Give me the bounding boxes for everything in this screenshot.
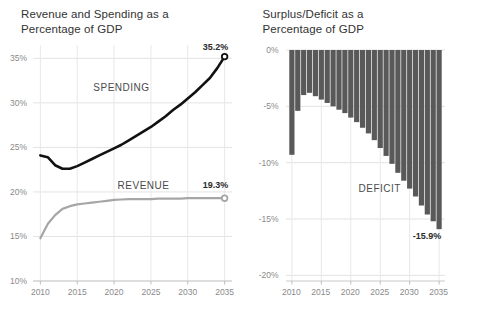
x-axis-tick-label: 2015 [68, 287, 87, 297]
y-axis-tick-label: 20% [0, 187, 27, 197]
y-axis-tick-label: 0% [242, 45, 279, 55]
bar [430, 50, 435, 221]
x-axis-tick-label: 2015 [311, 287, 330, 297]
y-axis-tick-label: -20% [242, 270, 279, 280]
bar [348, 50, 353, 118]
bar [407, 50, 412, 189]
y-axis-tick-label: 30% [0, 98, 27, 108]
bar [324, 50, 329, 103]
x-axis-tick-label: 2010 [31, 287, 50, 297]
series-annotation-revenue: REVENUE [118, 180, 170, 191]
x-axis-tick-label: 2030 [178, 287, 197, 297]
y-axis-tick-label: -5% [242, 101, 279, 111]
bar [312, 50, 317, 96]
bar [377, 50, 382, 148]
y-axis-tick-label: 10% [0, 276, 27, 286]
bar [289, 50, 294, 155]
bar [401, 50, 406, 181]
panel-surplus-deficit: Surplus/Deficit as a Percentage of GDP 0… [242, 0, 483, 314]
series-endpoint-marker-revenue [222, 195, 228, 201]
y-axis-tick-label: 35% [0, 53, 27, 63]
bar [412, 50, 417, 196]
bar-chart-surplus-deficit: 0%-5%-10%-15%-20%20102015202020252030203… [242, 0, 483, 314]
bar [336, 50, 341, 110]
value-label-revenue: 19.3% [203, 180, 229, 190]
bar [383, 50, 388, 156]
bar [342, 50, 347, 113]
x-axis-tick-label: 2020 [105, 287, 124, 297]
x-axis-tick-label: 2035 [215, 287, 234, 297]
bar [330, 50, 335, 106]
bar [418, 50, 423, 206]
bar [354, 50, 359, 122]
bar [306, 50, 311, 93]
bar [395, 50, 400, 173]
series-annotation-deficit: DEFICIT [359, 183, 401, 194]
y-axis-tick-label: 15% [0, 231, 27, 241]
bar [359, 50, 364, 128]
bar [295, 50, 300, 111]
x-axis-tick-label: 2010 [282, 287, 301, 297]
series-annotation-spending: SPENDING [93, 82, 149, 93]
bar [436, 50, 441, 229]
bar [371, 50, 376, 140]
x-axis-tick-label: 2035 [429, 287, 448, 297]
value-label-spending: 35.2% [203, 42, 229, 52]
bar [301, 50, 306, 95]
x-axis-tick-label: 2030 [400, 287, 419, 297]
y-axis-tick-label: 25% [0, 142, 27, 152]
bar [365, 50, 370, 133]
bar [318, 50, 323, 100]
line-chart-revenue-spending: 10%15%20%25%30%35%2010201520202025203020… [0, 0, 242, 314]
y-axis-tick-label: -15% [242, 214, 279, 224]
dual-chart-figure: Revenue and Spending as a Percentage of … [0, 0, 483, 314]
value-label-deficit: -15.9% [413, 231, 442, 241]
bar [389, 50, 394, 164]
series-endpoint-marker-spending [222, 54, 228, 60]
panel-revenue-spending: Revenue and Spending as a Percentage of … [0, 0, 242, 314]
series-line-spending [40, 57, 224, 169]
bar [424, 50, 429, 215]
series-line-revenue [40, 198, 224, 238]
x-axis-tick-label: 2025 [370, 287, 389, 297]
x-axis-tick-label: 2025 [141, 287, 160, 297]
y-axis-tick-label: -10% [242, 158, 279, 168]
x-axis-tick-label: 2020 [341, 287, 360, 297]
